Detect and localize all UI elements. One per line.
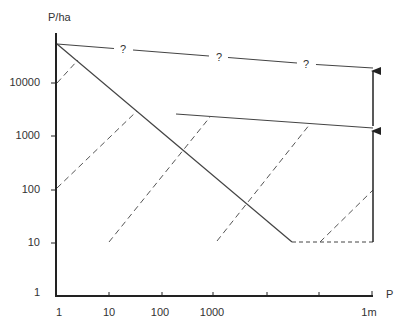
dashed-line-4 xyxy=(217,124,310,241)
plot-area xyxy=(0,0,407,331)
dashed-line-1 xyxy=(57,60,78,83)
dashed-lines xyxy=(57,60,373,242)
dashed-line-3 xyxy=(109,117,210,242)
diagram: P/ha P 10000 1000 100 10 1 1 10 100 1000… xyxy=(0,0,407,331)
y-tick-label-1000: 1000 xyxy=(0,129,40,141)
y-axis-title: P/ha xyxy=(48,11,71,23)
dashed-line-2 xyxy=(57,111,137,188)
y-tick-label-10: 10 xyxy=(0,236,40,248)
x-tick-label-1m: 1m xyxy=(361,306,376,318)
middle-line xyxy=(176,114,373,128)
x-axis-title: P xyxy=(386,288,393,300)
y-tick-label-1: 1 xyxy=(0,286,40,298)
x-tick-label-10: 10 xyxy=(103,306,115,318)
question-mark-2: ? xyxy=(213,51,225,63)
y-tick-label-100: 100 xyxy=(0,183,40,195)
x-tick-label-100: 100 xyxy=(151,306,169,318)
x-tick-label-1000: 1000 xyxy=(200,306,224,318)
y-tick-label-10000: 10000 xyxy=(0,76,40,88)
main-decline-line xyxy=(57,44,292,242)
x-tick-label-1: 1 xyxy=(56,306,62,318)
question-mark-3: ? xyxy=(300,58,312,70)
question-mark-1: ? xyxy=(117,43,129,55)
dashed-line-5 xyxy=(320,190,373,242)
